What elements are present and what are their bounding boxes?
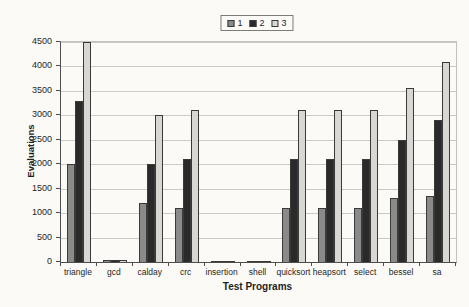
y-tick-mark <box>56 163 60 164</box>
bar-calday-series-2 <box>147 164 155 262</box>
bar-calday-series-3 <box>155 115 163 262</box>
x-axis-title: Test Programs <box>60 281 455 292</box>
bar-bessel-series-1 <box>390 198 398 262</box>
y-tick-label: 4000 <box>12 60 52 70</box>
x-tick-label: gcd <box>107 267 121 277</box>
bar-quicksort-series-1 <box>282 208 290 262</box>
y-tick-mark <box>56 212 60 213</box>
y-tick-mark <box>56 114 60 115</box>
legend-item: 3 <box>272 18 287 28</box>
bar-sa-series-3 <box>442 62 450 262</box>
bar-select-series-1 <box>354 208 362 262</box>
y-tick-mark <box>56 188 60 189</box>
bar-crc-series-1 <box>175 208 183 262</box>
gridline <box>61 140 456 141</box>
bar-bessel-series-3 <box>406 88 414 262</box>
x-tick-label: select <box>354 267 376 277</box>
x-tick-label: sa <box>433 267 442 277</box>
bar-bessel-series-2 <box>398 140 406 262</box>
gridline <box>61 66 456 67</box>
bar-sa-series-2 <box>434 120 442 262</box>
legend-swatch-icon <box>272 20 279 27</box>
bar-gcd-series-1 <box>103 260 111 262</box>
x-tick-mark <box>419 262 420 266</box>
y-tick-label: 3500 <box>12 85 52 95</box>
x-tick-mark <box>347 262 348 266</box>
legend-label: 3 <box>282 18 287 28</box>
bar-shell-series-2 <box>255 261 263 262</box>
bar-crc-series-2 <box>183 159 191 262</box>
y-tick-mark <box>56 90 60 91</box>
bar-gcd-series-3 <box>119 260 127 262</box>
legend-label: 1 <box>237 18 242 28</box>
bar-quicksort-series-2 <box>290 159 298 262</box>
bar-shell-series-1 <box>247 261 255 262</box>
plot-area <box>60 41 457 263</box>
gridline <box>61 189 456 190</box>
bar-triangle-series-3 <box>83 42 91 262</box>
x-tick-mark <box>311 262 312 266</box>
x-tick-label: heapsort <box>313 267 346 277</box>
x-tick-label: calday <box>137 267 162 277</box>
y-tick-label: 2500 <box>12 134 52 144</box>
bar-gcd-series-2 <box>111 260 119 262</box>
legend-label: 2 <box>259 18 264 28</box>
bar-chart-figure: 123 Evaluations 050010001500200025003000… <box>0 0 469 307</box>
bar-select-series-3 <box>370 110 378 262</box>
bar-sa-series-1 <box>426 196 434 262</box>
bar-quicksort-series-3 <box>298 110 306 262</box>
chart-legend: 123 <box>220 15 293 31</box>
x-tick-mark <box>168 262 169 266</box>
x-tick-mark <box>455 262 456 266</box>
x-tick-mark <box>96 262 97 266</box>
legend-swatch-icon <box>227 20 234 27</box>
bar-heapsort-series-2 <box>326 159 334 262</box>
bar-insertion-series-1 <box>211 261 219 262</box>
y-tick-label: 2000 <box>12 158 52 168</box>
x-tick-mark <box>383 262 384 266</box>
bar-heapsort-series-1 <box>318 208 326 262</box>
y-tick-label: 1000 <box>12 207 52 217</box>
y-tick-mark <box>56 65 60 66</box>
gridline <box>61 164 456 165</box>
x-tick-mark <box>60 262 61 266</box>
x-tick-mark <box>240 262 241 266</box>
bar-triangle-series-1 <box>67 164 75 262</box>
x-tick-label: crc <box>180 267 191 277</box>
gridline <box>61 91 456 92</box>
y-tick-mark <box>56 237 60 238</box>
y-tick-label: 3000 <box>12 109 52 119</box>
legend-swatch-icon <box>249 20 256 27</box>
gridline <box>61 115 456 116</box>
x-tick-mark <box>204 262 205 266</box>
y-tick-label: 0 <box>12 256 52 266</box>
y-tick-label: 4500 <box>12 36 52 46</box>
y-axis-title: Evaluations <box>25 124 36 177</box>
bar-heapsort-series-3 <box>334 110 342 262</box>
x-tick-label: shell <box>249 267 266 277</box>
x-tick-label: bessel <box>389 267 414 277</box>
bar-crc-series-3 <box>191 110 199 262</box>
x-tick-label: triangle <box>64 267 92 277</box>
bar-insertion-series-2 <box>219 261 227 262</box>
x-tick-mark <box>275 262 276 266</box>
gridline <box>61 42 456 43</box>
y-tick-label: 1500 <box>12 183 52 193</box>
y-tick-mark <box>56 139 60 140</box>
x-tick-label: quicksort <box>276 267 310 277</box>
y-tick-label: 500 <box>12 232 52 242</box>
legend-item: 2 <box>249 18 264 28</box>
x-tick-label: insertion <box>206 267 238 277</box>
x-tick-mark <box>132 262 133 266</box>
bar-shell-series-3 <box>263 261 271 262</box>
bar-calday-series-1 <box>139 203 147 262</box>
y-tick-mark <box>56 41 60 42</box>
legend-item: 1 <box>227 18 242 28</box>
bar-select-series-2 <box>362 159 370 262</box>
bar-triangle-series-2 <box>75 101 83 262</box>
bar-insertion-series-3 <box>227 261 235 262</box>
